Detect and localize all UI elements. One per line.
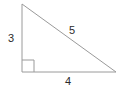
label-horizontal-leg: 4 bbox=[65, 76, 71, 87]
label-vertical-leg: 3 bbox=[8, 33, 14, 44]
triangle-outline bbox=[22, 4, 116, 72]
right-triangle-diagram: 3 5 4 bbox=[0, 0, 121, 91]
triangle-figure bbox=[0, 0, 121, 91]
right-angle-marker-icon bbox=[22, 60, 34, 72]
label-hypotenuse: 5 bbox=[69, 25, 75, 36]
